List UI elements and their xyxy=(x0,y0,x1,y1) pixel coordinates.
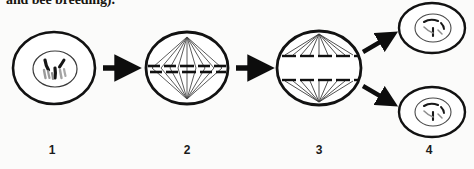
stage-2-cell xyxy=(146,32,228,104)
stage-label-1: 1 xyxy=(42,143,62,157)
stage-3-cell xyxy=(277,31,361,105)
stage-label-3: 3 xyxy=(309,143,329,157)
stage-label-2: 2 xyxy=(177,143,197,157)
arrow-stage3-to-lower-daughter xyxy=(363,86,392,103)
figure-canvas: and bee breeding). xyxy=(0,0,474,169)
stage-4-lower-daughter-cell xyxy=(399,87,465,137)
arrow-stage3-to-upper-daughter xyxy=(363,35,392,52)
stage-label-4: 4 xyxy=(419,143,439,157)
stage-4-upper-daughter-cell xyxy=(399,3,465,53)
stage-1-cell xyxy=(13,32,95,104)
cell-division-diagram xyxy=(0,0,474,169)
